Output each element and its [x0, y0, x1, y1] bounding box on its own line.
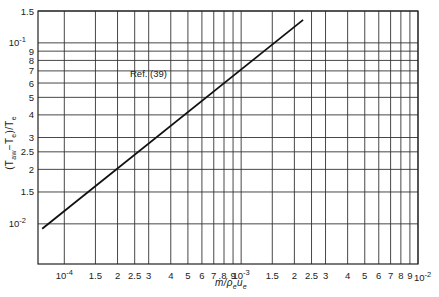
grid-lines — [38, 11, 418, 264]
x-tick-label: 1.5 — [89, 270, 102, 281]
x-tick-label: 5 — [362, 270, 367, 281]
x-tick-label: 10-4 — [56, 268, 73, 281]
y-tick-label: 10-2 — [9, 216, 26, 229]
y-tick-label: 6 — [29, 78, 34, 89]
y-tick-label: 1.5 — [21, 186, 34, 197]
y-tick-label: 10-1 — [9, 35, 26, 48]
y-axis-label: (Taw−Te)/Te — [4, 116, 17, 170]
x-tick-label: 8 — [398, 270, 403, 281]
y-tick-label: 2.5 — [21, 146, 34, 157]
x-tick-label: 2 — [115, 270, 120, 281]
y-tick-label: 3 — [29, 132, 34, 143]
chart-canvas: 10-41.522.5345678910-31.522.5345678910-2… — [0, 0, 439, 297]
x-tick-label: 2 — [292, 270, 297, 281]
x-axis-label: ṁ/ρeue — [215, 277, 247, 290]
x-tick-label: 4 — [345, 270, 350, 281]
x-tick-label: 3 — [146, 270, 151, 281]
y-tick-label: 9 — [29, 46, 34, 57]
y-tick-label: 2 — [29, 164, 34, 175]
x-tick-label: 2.5 — [305, 270, 318, 281]
x-tick-label: 9 — [407, 270, 412, 281]
x-tick-label: 1.5 — [266, 270, 279, 281]
y-axis-label-container: (Taw−Te)/Te — [2, 95, 18, 190]
x-tick-label: 10-2 — [414, 270, 431, 283]
x-tick-label: 6 — [199, 270, 204, 281]
x-tick-label: 6 — [376, 270, 381, 281]
x-tick-label: 4 — [168, 270, 173, 281]
x-tick-label: 3 — [323, 270, 328, 281]
x-tick-label: 5 — [185, 270, 190, 281]
x-tick-label: 2.5 — [128, 270, 141, 281]
series-annotation: Ref. (39) — [130, 68, 167, 79]
y-tick-label: 1.5 — [21, 6, 34, 17]
y-tick-label: 5 — [29, 92, 34, 103]
x-tick-label: 7 — [388, 270, 393, 281]
y-tick-label: 4 — [29, 109, 34, 120]
y-tick-label: 7 — [29, 65, 34, 76]
